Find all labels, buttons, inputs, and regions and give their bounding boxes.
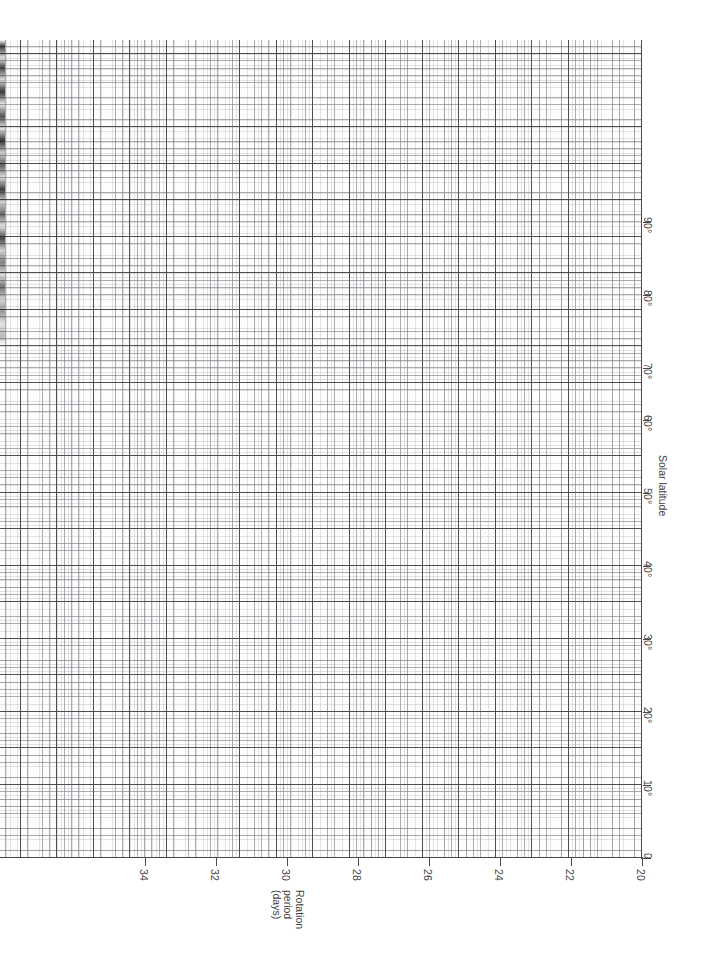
rotation-period-tick-label: 32 xyxy=(209,869,221,909)
solar-latitude-tick-label: 70° xyxy=(642,363,654,403)
rotation-period-tick xyxy=(429,858,430,866)
solar-latitude-tick-label: 90° xyxy=(642,217,654,257)
graph-paper-plot-area xyxy=(0,40,642,858)
axis-title-line-2: period xyxy=(282,890,294,929)
rotation-period-tick xyxy=(571,858,572,866)
solar-latitude-axis-title: Solar latitude xyxy=(657,455,669,516)
solar-latitude-tick-label: 60° xyxy=(642,415,654,455)
rotation-period-tick-label: 34 xyxy=(138,869,150,909)
solar-latitude-tick-label: 40° xyxy=(642,561,654,601)
rotation-period-tick-label: 26 xyxy=(422,869,434,909)
rotation-period-tick xyxy=(216,858,217,866)
solar-latitude-tick-label: 50° xyxy=(642,488,654,528)
rotation-period-tick-label: 28 xyxy=(351,869,363,909)
rotation-period-axis-title: Rotation period (days) xyxy=(271,890,306,929)
solar-latitude-tick-label: 80° xyxy=(642,290,654,330)
rotation-period-tick-label: 24 xyxy=(493,869,505,909)
axis-title-line-3: (days) xyxy=(271,890,283,929)
solar-latitude-tick-label: 10° xyxy=(642,780,654,820)
rotation-period-tick xyxy=(287,858,288,866)
figure-root: 3432302826242220 90°80°70°60°50°40°30°20… xyxy=(0,0,718,978)
solar-latitude-tick-label: 0 xyxy=(642,853,654,893)
rotation-period-axis-line xyxy=(0,857,643,858)
rotation-period-tick xyxy=(145,858,146,866)
rotation-period-tick xyxy=(500,858,501,866)
rotation-period-tick xyxy=(358,858,359,866)
solar-latitude-tick-label: 30° xyxy=(642,634,654,674)
rotation-period-tick-label: 22 xyxy=(564,869,576,909)
axis-title-line-1: Rotation xyxy=(294,890,306,929)
solar-latitude-tick-label: 20° xyxy=(642,707,654,747)
